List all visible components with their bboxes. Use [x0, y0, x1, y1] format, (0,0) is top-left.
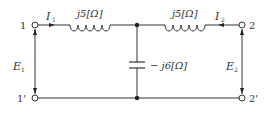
terminal-1-label: 1: [20, 20, 26, 31]
e1-arrowhead-up: [33, 29, 37, 35]
e1-subscript: 1: [21, 66, 25, 73]
terminal-2-prime-label: 2': [249, 93, 258, 104]
left-inductor: [70, 25, 110, 31]
capacitor-label: − j6[Ω]: [150, 60, 187, 71]
terminal-1: [32, 22, 38, 28]
terminal-1-prime: [32, 95, 38, 101]
i1-arrowhead: [49, 23, 55, 27]
terminal-2-prime: [239, 95, 245, 101]
i1-label: I: [45, 10, 51, 23]
e2-arrowhead-down: [240, 88, 244, 94]
junction-dot-bottom: [135, 96, 139, 100]
circuit-diagram: 1 1' 2 2' I 1 I 2 E 1 E 2 j5[Ω] j5[Ω] − …: [0, 0, 273, 113]
e2-subscript: 2: [234, 66, 238, 73]
e2-label: E: [225, 60, 234, 73]
terminal-1-prime-label: 1': [17, 93, 26, 104]
terminal-2-label: 2: [249, 20, 255, 31]
left-inductor-label: j5[Ω]: [75, 8, 103, 19]
i1-subscript: 1: [52, 16, 56, 23]
e1-label: E: [12, 60, 21, 73]
right-inductor-label: j5[Ω]: [170, 8, 198, 19]
e2-arrowhead-up: [240, 29, 244, 35]
junction-dot-top: [135, 23, 139, 27]
i2-label: I: [214, 10, 220, 23]
terminal-2: [239, 22, 245, 28]
i2-subscript: 2: [221, 16, 225, 23]
i2-arrowhead: [218, 23, 224, 27]
right-inductor: [165, 25, 205, 31]
e1-arrowhead-down: [33, 88, 37, 94]
